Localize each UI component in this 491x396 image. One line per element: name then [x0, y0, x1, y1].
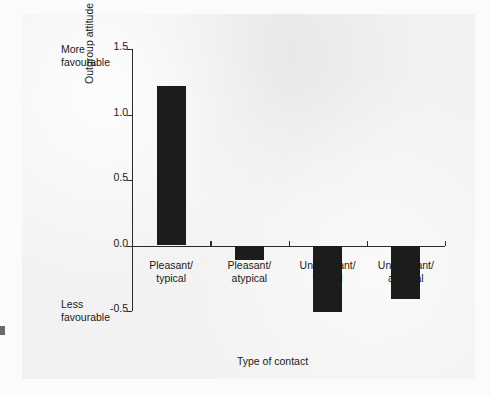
axis-note-less-favourable: Less favourable	[61, 298, 110, 323]
axis-note-less-favourable-line2: favourable	[61, 311, 110, 324]
x-category-label-line: typical	[149, 272, 193, 285]
x-category-label-line: Pleasant/	[227, 259, 271, 272]
y-axis-title: Outgroup attitude relative to no contact	[84, 0, 95, 84]
x-tick-mark	[367, 241, 368, 246]
x-category-label-line: Unpleasant/	[378, 259, 434, 272]
x-category-label-0: Pleasant/typical	[149, 259, 193, 284]
scan-artifact-speck	[0, 326, 5, 335]
x-axis-title: Type of contact	[237, 355, 308, 367]
x-axis-title-wrap: Type of contact	[0, 355, 491, 367]
y-tick-label: -0.5	[110, 303, 128, 314]
y-tick-label: 1.0	[113, 107, 128, 118]
y-tick-label: 0.5	[113, 172, 128, 183]
x-category-label-line: Unpleasant/	[300, 259, 356, 272]
x-category-label-line: typical	[300, 272, 356, 285]
x-tick-mark	[210, 241, 211, 246]
x-category-label-1: Pleasant/atypical	[227, 259, 271, 284]
x-category-label-2: Unpleasant/typical	[300, 259, 356, 284]
x-tick-mark	[289, 241, 290, 246]
plot-area: 1.51.00.50.0-0.5 Pleasant/typicalPleasan…	[132, 49, 445, 311]
figure-canvas: More favourable Less favourable Outgroup…	[0, 0, 491, 396]
bar-1	[235, 246, 264, 260]
x-category-label-line: Pleasant/	[149, 259, 193, 272]
x-category-label-3: Unpleasant/atypical	[378, 259, 434, 284]
x-category-label-line: atypical	[227, 272, 271, 285]
y-tick-label: 1.5	[113, 41, 128, 52]
y-tick-label: 0.0	[113, 238, 128, 249]
bar-0	[157, 86, 186, 246]
x-category-label-line: atypical	[378, 272, 434, 285]
y-axis-line	[132, 49, 133, 311]
x-tick-mark	[445, 241, 446, 246]
axis-note-less-favourable-line1: Less	[61, 298, 110, 311]
